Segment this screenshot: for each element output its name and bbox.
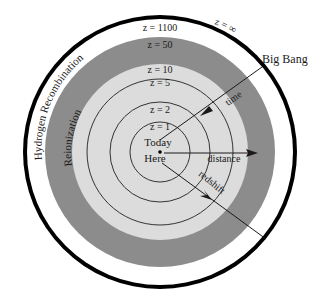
label-z5: z = 5: [150, 77, 170, 88]
label-here: Here: [144, 152, 165, 164]
label-z1100: z = 1100: [143, 22, 178, 33]
label-z10: z = 10: [147, 64, 172, 75]
cosmic-shells-diagram: z = 1100 z = 50 z = 10 z = 5 z = 2 z = 1…: [0, 0, 320, 300]
label-z1: z = 1: [150, 121, 170, 132]
label-today: Today: [144, 136, 172, 148]
label-distance: distance: [208, 153, 241, 164]
label-z50: z = 50: [147, 39, 172, 50]
label-z2: z = 2: [150, 104, 170, 115]
label-big-bang: Big Bang: [262, 52, 308, 66]
